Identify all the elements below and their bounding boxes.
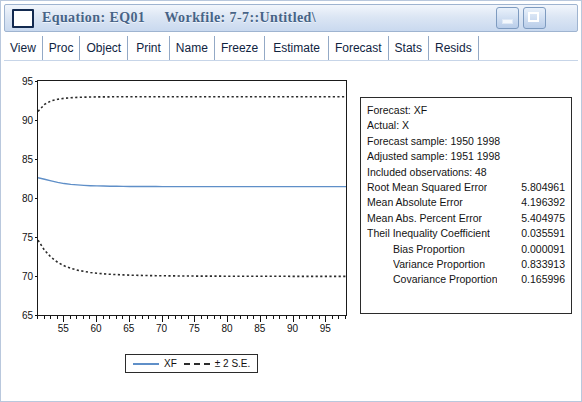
toolbar-button-view[interactable]: View (4, 36, 43, 60)
x-tick-minor (44, 316, 45, 319)
x-axis: 556065707580859095 (37, 316, 347, 342)
x-tick-minor (168, 316, 169, 319)
legend-label-forecast: XF (164, 358, 177, 369)
toolbar: View Proc Object Print Name Freeze Estim… (4, 36, 578, 61)
y-tick-label: 65 (22, 310, 33, 321)
x-tick-minor (109, 316, 110, 319)
minimize-icon (502, 19, 513, 24)
stat-row: Mean Absolute Error4.196392 (367, 195, 565, 210)
stat-label: Mean Absolute Error (367, 195, 463, 210)
stat-value: 0.000091 (515, 242, 565, 257)
x-tick-major (162, 316, 163, 322)
x-tick-major (260, 316, 261, 322)
y-tick-label: 85 (22, 154, 33, 165)
x-tick-major (227, 316, 228, 322)
x-tick-label: 80 (221, 323, 232, 334)
toolbar-button-object[interactable]: Object (80, 36, 128, 60)
stat-row: Included observations: 48 (367, 165, 565, 180)
stat-row: Adjusted sample: 1951 1998 (367, 149, 565, 164)
stat-row: Root Mean Squared Error5.804961 (367, 180, 565, 195)
x-tick-minor (220, 316, 221, 319)
y-tick-label: 80 (22, 193, 33, 204)
legend-label-band: ± 2 S.E. (215, 358, 251, 369)
x-tick-major (63, 316, 64, 322)
x-tick-minor (234, 316, 235, 319)
x-tick-minor (299, 316, 300, 319)
stat-row: Bias Proportion0.000091 (367, 242, 565, 257)
series-line (38, 178, 346, 187)
x-tick-minor (155, 316, 156, 319)
x-tick-minor (312, 316, 313, 319)
stat-row: Theil Inequality Coefficient0.035591 (367, 226, 565, 241)
forecast-chart: 65707580859095 556065707580859095 (12, 80, 352, 342)
x-tick-minor (279, 316, 280, 319)
toolbar-button-stats[interactable]: Stats (389, 36, 429, 60)
series-line (38, 97, 346, 112)
x-tick-label: 75 (189, 323, 200, 334)
x-tick-minor (286, 316, 287, 319)
x-tick-minor (247, 316, 248, 319)
y-tick-label: 70 (22, 271, 33, 282)
x-tick-minor (188, 316, 189, 319)
toolbar-button-resids[interactable]: Resids (429, 36, 479, 60)
x-tick-label: 95 (320, 323, 331, 334)
stat-row: Forecast sample: 1950 1998 (367, 134, 565, 149)
stat-label: Forecast sample: 1950 1998 (367, 134, 565, 149)
x-tick-minor (116, 316, 117, 319)
maximize-icon (528, 12, 539, 22)
equation-forecast-window: Equation: EQ01 Workfile: 7-7::Untitled\ … (0, 0, 582, 402)
stat-value: 0.833913 (515, 257, 565, 272)
window-icon[interactable] (12, 9, 34, 28)
toolbar-button-freeze[interactable]: Freeze (215, 36, 265, 60)
x-tick-minor (70, 316, 71, 319)
x-tick-minor (135, 316, 136, 319)
x-tick-minor (57, 316, 58, 319)
stat-label: Variance Proportion (393, 257, 485, 272)
x-tick-minor (103, 316, 104, 319)
x-tick-major (129, 316, 130, 322)
y-tick-label: 90 (22, 115, 33, 126)
x-tick-major (293, 316, 294, 322)
x-tick-label: 70 (156, 323, 167, 334)
stat-row: Actual: X (367, 118, 565, 133)
stat-row: Mean Abs. Percent Error5.404975 (367, 211, 565, 226)
stat-label: Adjusted sample: 1951 1998 (367, 149, 565, 164)
minimize-button[interactable] (496, 7, 519, 29)
legend-item-forecast: XF (133, 358, 177, 369)
stat-label: Included observations: 48 (367, 165, 565, 180)
x-tick-minor (175, 316, 176, 319)
maximize-button[interactable] (523, 7, 546, 29)
toolbar-button-forecast[interactable]: Forecast (329, 36, 389, 60)
x-tick-minor (37, 316, 38, 319)
legend-item-band: ± 2 S.E. (184, 358, 251, 369)
dashed-line-icon (184, 363, 210, 365)
stat-value: 4.196392 (515, 195, 565, 210)
stat-label: Theil Inequality Coefficient (367, 226, 490, 241)
x-tick-minor (50, 316, 51, 319)
stat-label: Root Mean Squared Error (367, 180, 487, 195)
stat-label: Actual: X (367, 118, 565, 133)
solid-line-icon (133, 363, 159, 365)
stat-value: 0.165996 (515, 272, 565, 287)
toolbar-button-estimate[interactable]: Estimate (265, 36, 329, 60)
x-tick-label: 60 (90, 323, 101, 334)
x-tick-minor (201, 316, 202, 319)
x-tick-label: 65 (123, 323, 134, 334)
x-tick-minor (142, 316, 143, 319)
x-tick-minor (83, 316, 84, 319)
plot-svg (38, 81, 346, 315)
plot-area (37, 80, 347, 316)
toolbar-button-proc[interactable]: Proc (43, 36, 81, 60)
forecast-stats-panel: Forecast: XFActual: XForecast sample: 19… (360, 97, 572, 314)
x-tick-minor (76, 316, 77, 319)
x-tick-minor (338, 316, 339, 319)
toolbar-button-print[interactable]: Print (128, 36, 170, 60)
stat-value: 5.404975 (515, 211, 565, 226)
stat-label: Bias Proportion (393, 242, 465, 257)
stat-value: 5.804961 (515, 180, 565, 195)
toolbar-button-name[interactable]: Name (170, 36, 215, 60)
stat-label: Covariance Proportion (393, 272, 497, 287)
x-tick-major (325, 316, 326, 322)
x-tick-minor (319, 316, 320, 319)
stat-label: Mean Abs. Percent Error (367, 211, 482, 226)
